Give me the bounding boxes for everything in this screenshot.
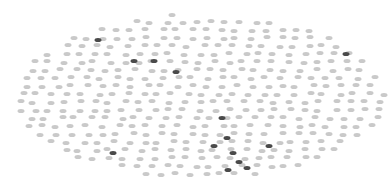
data-point (376, 100, 383, 104)
data-point (194, 116, 201, 120)
data-point (152, 157, 159, 161)
data-point (257, 99, 264, 103)
data-point (246, 44, 253, 48)
data-point (64, 52, 71, 56)
data-point (112, 28, 119, 32)
data-point (216, 93, 223, 97)
data-point (230, 36, 237, 40)
data-point (47, 92, 54, 96)
data-point (219, 75, 226, 79)
highlighted-data-point (110, 151, 117, 155)
data-point (79, 44, 86, 48)
data-point (368, 123, 375, 127)
data-point (253, 163, 260, 167)
data-point (153, 108, 160, 112)
data-point (168, 155, 175, 159)
data-point (279, 164, 286, 168)
data-point (307, 91, 314, 95)
data-point (108, 61, 115, 65)
data-point (285, 100, 292, 104)
data-point (43, 59, 50, 63)
data-point (125, 91, 132, 95)
data-point (89, 115, 96, 119)
data-point (88, 68, 95, 72)
data-point (227, 156, 234, 160)
data-point (306, 29, 313, 33)
data-point (142, 27, 149, 31)
data-point (201, 133, 208, 137)
data-point (311, 83, 318, 87)
data-point (77, 99, 84, 103)
data-point (74, 67, 81, 71)
data-point (279, 84, 286, 88)
data-point (149, 164, 156, 168)
highlighted-data-point (95, 38, 102, 42)
data-point (171, 27, 178, 31)
data-point (285, 53, 292, 57)
data-point (361, 99, 368, 103)
data-point (347, 108, 354, 112)
data-point (309, 131, 316, 135)
data-point (186, 173, 193, 177)
data-point (265, 123, 272, 127)
data-point (92, 99, 99, 103)
data-point (227, 107, 234, 111)
data-point (83, 37, 90, 41)
data-point (284, 155, 291, 159)
data-point (337, 83, 344, 87)
data-point (279, 35, 286, 39)
data-point (316, 51, 323, 55)
data-point (114, 75, 121, 79)
data-point (143, 133, 150, 137)
data-point (244, 139, 251, 143)
data-point (246, 123, 253, 127)
data-point (251, 115, 258, 119)
data-point (253, 21, 260, 25)
data-point (166, 59, 173, 63)
data-point (205, 116, 212, 120)
data-point (371, 75, 378, 79)
data-point (321, 76, 328, 80)
data-point (314, 67, 321, 71)
data-point (169, 43, 176, 47)
data-point (128, 124, 135, 128)
data-point (70, 36, 77, 40)
data-point (134, 100, 141, 104)
data-point (174, 36, 181, 40)
data-point (91, 52, 98, 56)
data-point (64, 43, 71, 47)
data-point (68, 133, 75, 137)
data-point (266, 21, 273, 25)
data-point (230, 131, 237, 135)
data-point (89, 157, 96, 161)
data-point (181, 60, 188, 64)
data-point (126, 28, 133, 32)
data-point (76, 109, 83, 113)
data-point (287, 140, 294, 144)
data-point (229, 43, 236, 47)
data-point (348, 99, 355, 103)
data-point (268, 59, 275, 63)
data-point (265, 85, 272, 89)
data-point (238, 59, 245, 63)
data-point (285, 60, 292, 64)
data-point (345, 67, 352, 71)
data-point (189, 125, 196, 129)
data-point (84, 75, 91, 79)
data-point (78, 61, 85, 65)
data-point (337, 93, 344, 97)
highlighted-data-point (219, 116, 226, 120)
data-point (115, 68, 122, 72)
data-point (375, 107, 382, 111)
data-point (211, 53, 218, 57)
data-point (231, 75, 238, 79)
data-point (198, 149, 205, 153)
data-point (318, 147, 325, 151)
data-point (41, 69, 48, 73)
data-point (77, 92, 84, 96)
data-point (109, 92, 116, 96)
data-point (161, 36, 168, 40)
data-point (189, 27, 196, 31)
data-point (233, 83, 240, 87)
data-point (280, 124, 287, 128)
